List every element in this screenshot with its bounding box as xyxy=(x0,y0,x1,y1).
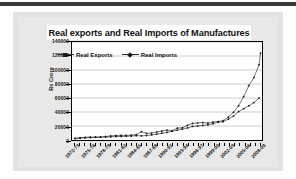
y-axis-tick-label: 60000 xyxy=(39,96,69,101)
x-axis-tick-mark xyxy=(193,143,194,146)
x-axis-tick-label: 2005-06 xyxy=(235,143,251,159)
y-axis-tick-mark xyxy=(66,112,71,113)
x-axis-tick-mark xyxy=(131,143,132,146)
screenshot-root: Real exports and Real Imports of Manufac… xyxy=(0,0,296,179)
y-axis-tick-label: 80000 xyxy=(39,81,69,86)
x-axis-tick-mark xyxy=(255,143,256,146)
x-axis-tick-mark xyxy=(146,143,147,146)
x-axis-tick-label: 1975-76 xyxy=(80,143,96,159)
chart-legend: Real Exports Real Imports xyxy=(55,50,179,59)
chart-title: Real exports and Real Imports of Manufac… xyxy=(47,25,251,40)
x-axis-tick-label: 1984-85 xyxy=(126,143,142,159)
legend-label-real-imports: Real Imports xyxy=(141,52,177,58)
x-axis-tick-mark xyxy=(208,143,209,146)
y-axis-tick-mark xyxy=(66,55,71,56)
y-axis-tick-label: 40000 xyxy=(39,110,69,115)
x-axis-tick-mark xyxy=(224,143,225,146)
x-axis-tick-label: 1999-00 xyxy=(204,143,220,159)
x-axis-tick-mark xyxy=(84,143,85,146)
legend-label-real-exports: Real Exports xyxy=(76,52,113,58)
x-axis-tick-mark xyxy=(115,143,116,146)
y-axis-tick-label: 140000 xyxy=(39,39,69,44)
x-axis-tick-label: 1972-73 xyxy=(64,143,80,159)
x-axis-tick-label: 1993-94 xyxy=(173,143,189,159)
top-divider-rule xyxy=(0,2,296,6)
y-axis-tick-label: 0 xyxy=(39,139,69,144)
x-axis-tick-label: 1981-82 xyxy=(111,143,127,159)
y-axis-tick-mark xyxy=(66,70,71,71)
x-axis-tick-label: 1990-91 xyxy=(157,143,173,159)
x-axis-tick-label: 1987-88 xyxy=(142,143,158,159)
y-axis-tick-mark xyxy=(66,141,71,142)
x-axis-tick-label: 2008-09 xyxy=(250,143,266,159)
y-axis-tick-mark xyxy=(66,84,71,85)
y-axis-tick-mark xyxy=(66,98,71,99)
y-axis-tick-label: 20000 xyxy=(39,124,69,129)
x-axis-tick-mark xyxy=(162,143,163,146)
legend-item-real-imports: Real Imports xyxy=(122,51,177,58)
x-axis-tick-label: 2002-03 xyxy=(219,143,235,159)
y-axis-tick-mark xyxy=(66,41,71,42)
x-axis-tick-label: 1996-97 xyxy=(188,143,204,159)
x-axis-tick-mark xyxy=(100,143,101,146)
x-axis-tick-mark xyxy=(239,143,240,146)
chart-panel: Real exports and Real Imports of Manufac… xyxy=(19,17,277,167)
x-axis-tick-mark xyxy=(177,143,178,146)
legend-marker-diamond-icon xyxy=(122,51,139,58)
slide-area: Real exports and Real Imports of Manufac… xyxy=(13,12,283,171)
y-axis-tick-label: 100000 xyxy=(39,67,69,72)
y-axis-tick-mark xyxy=(66,127,71,128)
x-axis-tick-label: 1978-79 xyxy=(95,143,111,159)
x-axis-tick-labels: 1972-731975-761978-791981-821984-851987-… xyxy=(71,143,263,179)
